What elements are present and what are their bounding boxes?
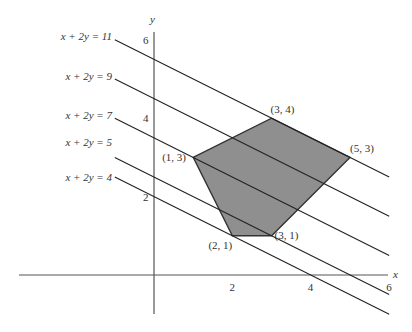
vertex-label: (1, 3) xyxy=(162,151,186,164)
x-axis-label: x xyxy=(392,268,398,280)
level-line-label: x + 2y = 9 xyxy=(64,70,112,82)
vertex-label: (3, 1) xyxy=(275,229,299,242)
lp-diagram: xy246246 x + 2y = 11x + 2y = 9x + 2y = 7… xyxy=(0,0,412,332)
x-tick-label: 4 xyxy=(308,281,314,293)
level-line-label: x + 2y = 4 xyxy=(64,171,112,183)
level-line-label: x + 2y = 11 xyxy=(60,30,112,42)
labels: x + 2y = 11x + 2y = 9x + 2y = 7x + 2y = … xyxy=(60,30,374,252)
feasible-region-polygon xyxy=(193,118,350,236)
level-line-label: x + 2y = 7 xyxy=(64,109,112,121)
y-tick-label: 6 xyxy=(143,34,149,46)
level-line-label: x + 2y = 5 xyxy=(64,136,112,148)
feasible-region xyxy=(193,118,350,236)
x-tick-label: 2 xyxy=(229,281,235,293)
y-tick-label: 4 xyxy=(143,112,149,124)
x-tick-label: 6 xyxy=(386,281,392,293)
vertex-label: (2, 1) xyxy=(208,239,232,252)
vertex-label: (3, 4) xyxy=(271,103,295,116)
vertex-label: (5, 3) xyxy=(350,142,374,155)
y-axis-label: y xyxy=(149,13,155,25)
